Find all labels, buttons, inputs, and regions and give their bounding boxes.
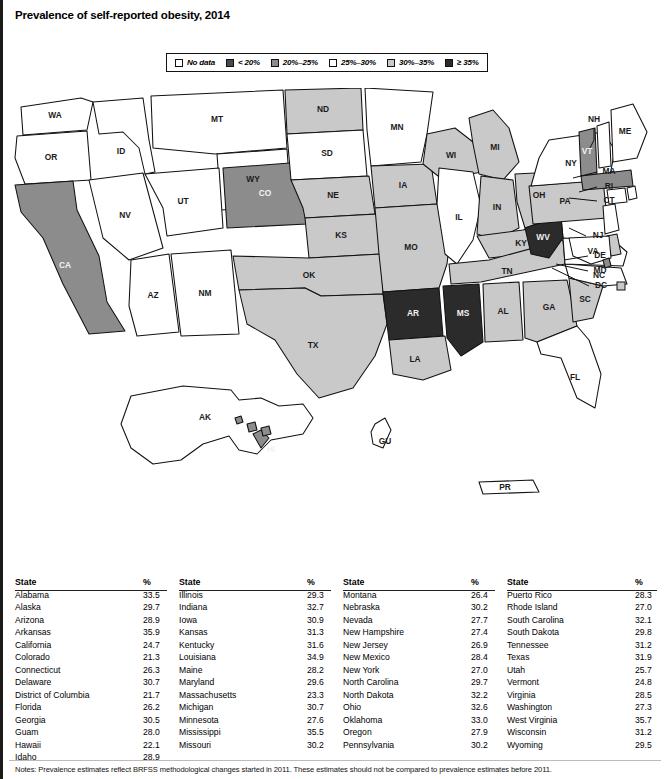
cell-state-name: Connecticut: [15, 664, 143, 677]
column-header-state: State: [507, 577, 635, 589]
column-header-percent: %: [635, 577, 652, 589]
us-map-svg: WAORCANVIDMTWYUTAZNMCONDSDNEKSOKTXMNIAMO…: [3, 88, 665, 573]
cell-prevalence-percent: 32.2: [471, 689, 488, 702]
state-ri: [627, 186, 637, 200]
map-label-oh: OH: [533, 190, 546, 200]
map-label-pr: PR: [499, 482, 511, 492]
map-label-ms: MS: [457, 308, 470, 318]
table-row: Colorado21.3: [15, 652, 160, 665]
table-row: Hawaii22.1: [15, 739, 160, 752]
cell-prevalence-percent: 33.0: [471, 714, 488, 727]
table-row: Pennsylvania30.2: [343, 739, 488, 752]
cell-state-name: Michigan: [179, 702, 307, 715]
cell-prevalence-percent: 28.4: [471, 652, 488, 665]
legend-35-plus: ≥ 35%: [445, 58, 479, 67]
table-row: Georgia30.5: [15, 714, 160, 727]
table-row: Florida26.2: [15, 702, 160, 715]
map-label-mn: MN: [390, 122, 403, 132]
map-label-co: CO: [259, 188, 272, 198]
table-row: New York27.0: [343, 664, 488, 677]
table-row: Iowa30.9: [179, 614, 324, 627]
table-row: Kansas31.3: [179, 627, 324, 640]
cell-state-name: Washington: [507, 702, 635, 715]
map-label-or: OR: [45, 152, 58, 162]
legend-no-data-swatch: [175, 59, 183, 67]
cell-prevalence-percent: 30.2: [471, 739, 488, 752]
map-label-tx: TX: [308, 340, 319, 350]
cell-prevalence-percent: 32.6: [471, 702, 488, 715]
state-id: [93, 98, 155, 174]
cell-prevalence-percent: 24.8: [635, 677, 652, 690]
cell-prevalence-percent: 23.3: [307, 689, 324, 702]
map-label-id: ID: [117, 146, 125, 156]
map-label-nd: ND: [317, 104, 329, 114]
table-header-rule: [343, 590, 495, 591]
state-ms: [443, 284, 483, 356]
cell-prevalence-percent: 28.9: [143, 752, 160, 765]
cell-prevalence-percent: 28.5: [635, 689, 652, 702]
column-header-percent: %: [471, 577, 488, 589]
cell-prevalence-percent: 26.2: [143, 702, 160, 715]
cell-prevalence-percent: 26.9: [471, 639, 488, 652]
column-header-state: State: [15, 577, 143, 589]
map-label-pa: PA: [559, 196, 570, 206]
choropleth-map: WAORCANVIDMTWYUTAZNMCONDSDNEKSOKTXMNIAMO…: [3, 88, 665, 573]
cell-state-name: Kentucky: [179, 639, 307, 652]
cell-prevalence-percent: 25.7: [635, 664, 652, 677]
map-label-wi: WI: [446, 150, 456, 160]
cell-prevalence-percent: 29.8: [635, 627, 652, 640]
table-row: Maine28.2: [179, 664, 324, 677]
cell-state-name: Indiana: [179, 602, 307, 615]
map-label-ia: IA: [399, 180, 407, 190]
cell-prevalence-percent: 27.9: [471, 727, 488, 740]
cell-prevalence-percent: 30.7: [307, 702, 324, 715]
cell-state-name: Wyoming: [507, 739, 635, 752]
cell-prevalence-percent: 26.3: [143, 664, 160, 677]
cell-state-name: Arizona: [15, 614, 143, 627]
table-row: South Carolina32.1: [507, 614, 652, 627]
table-row: Nevada27.7: [343, 614, 488, 627]
cell-state-name: West Virginia: [507, 714, 635, 727]
cell-state-name: Nebraska: [343, 602, 471, 615]
map-label-la: LA: [409, 354, 420, 364]
state-hi-island-3: [261, 426, 271, 436]
table-row: Utah25.7: [507, 664, 652, 677]
cell-state-name: New Hampshire: [343, 627, 471, 640]
map-label-ma: MA: [602, 166, 615, 176]
cell-state-name: Iowa: [179, 614, 307, 627]
cell-state-name: Nevada: [343, 614, 471, 627]
prevalence-table-column-2: State%Illinois29.3Indiana32.7Iowa30.9Kan…: [179, 577, 324, 752]
map-label-vt: VT: [582, 146, 594, 156]
table-row: Michigan30.7: [179, 702, 324, 715]
cell-state-name: South Carolina: [507, 614, 635, 627]
column-header-percent: %: [143, 577, 160, 589]
notes-divider: [9, 760, 661, 761]
cell-prevalence-percent: 30.9: [307, 614, 324, 627]
map-label-dc: DC: [595, 280, 607, 290]
table-row: Ohio32.6: [343, 702, 488, 715]
map-label-ca: CA: [59, 260, 71, 270]
map-label-ga: GA: [543, 302, 556, 312]
state-nj: [603, 204, 619, 234]
cell-state-name: Ohio: [343, 702, 471, 715]
cell-state-name: Texas: [507, 652, 635, 665]
map-label-de: DE: [594, 250, 606, 260]
cell-state-name: Tennessee: [507, 639, 635, 652]
cell-prevalence-percent: 27.3: [635, 702, 652, 715]
cell-state-name: Massachusetts: [179, 689, 307, 702]
cell-state-name: New Mexico: [343, 652, 471, 665]
map-label-az: AZ: [147, 290, 158, 300]
map-label-al: AL: [497, 306, 508, 316]
cell-state-name: Georgia: [15, 714, 143, 727]
table-row: Alaska29.7: [15, 602, 160, 615]
cell-prevalence-percent: 21.7: [143, 689, 160, 702]
map-label-hi: HI: [267, 444, 275, 454]
cell-prevalence-percent: 29.7: [471, 677, 488, 690]
cell-prevalence-percent: 35.7: [635, 714, 652, 727]
cell-state-name: Guam: [15, 727, 143, 740]
cell-state-name: Delaware: [15, 677, 143, 690]
map-label-ny: NY: [565, 158, 577, 168]
legend-25-30: 25%–30%: [329, 58, 376, 67]
map-label-in: IN: [493, 202, 501, 212]
table-row: Indiana32.7: [179, 602, 324, 615]
